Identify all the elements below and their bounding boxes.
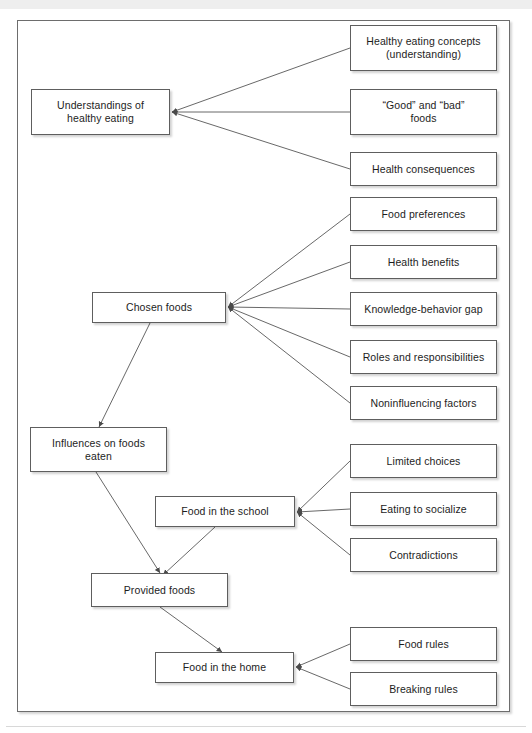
node-food-in-the-home: Food in the home [155, 652, 294, 683]
node-limited-choices: Limited choices [350, 444, 497, 478]
node-label: Eating to socialize [380, 503, 467, 516]
node-label: Food preferences [382, 208, 466, 221]
node-label: Provided foods [124, 584, 195, 597]
node-label: Roles and responsibilities [363, 351, 485, 364]
node-label: Healthy eating concepts(understanding) [366, 35, 480, 61]
node-contradictions: Contradictions [350, 538, 497, 572]
node-label: Contradictions [389, 549, 458, 562]
node-label: Food in the school [181, 505, 269, 518]
node-knowledge-behavior-gap: Knowledge-behavior gap [350, 292, 497, 326]
node-label: “Good” and “bad”foods [382, 99, 464, 125]
node-healthy-eating-concepts: Healthy eating concepts(understanding) [350, 25, 497, 71]
node-food-rules: Food rules [350, 627, 497, 661]
node-label: Health benefits [388, 256, 460, 269]
node-label: Food in the home [183, 661, 266, 674]
node-label: Influences on foodseaten [52, 437, 145, 463]
node-label: Understandings ofhealthy eating [57, 99, 144, 125]
node-eating-to-socialize: Eating to socialize [350, 492, 497, 526]
node-noninfluencing-factors: Noninfluencing factors [350, 386, 497, 420]
node-health-consequences: Health consequences [350, 152, 497, 186]
node-roles-and-responsibilities: Roles and responsibilities [350, 340, 497, 374]
node-health-benefits: Health benefits [350, 245, 497, 279]
node-label: Food rules [398, 638, 449, 651]
node-understandings-of-healthy-eating: Understandings ofhealthy eating [31, 89, 170, 135]
node-label: Chosen foods [126, 301, 192, 314]
node-good-and-bad-foods: “Good” and “bad”foods [350, 89, 497, 135]
node-label: Health consequences [372, 163, 475, 176]
node-label: Breaking rules [389, 683, 458, 696]
node-food-in-the-school: Food in the school [155, 496, 295, 527]
node-influences-on-foods-eaten: Influences on foodseaten [30, 427, 167, 472]
figure-page: Understandings ofhealthy eating Healthy … [0, 0, 532, 733]
node-layer: Understandings ofhealthy eating Healthy … [0, 0, 532, 733]
node-label: Limited choices [387, 455, 461, 468]
node-food-preferences: Food preferences [350, 197, 497, 231]
node-label: Knowledge-behavior gap [364, 303, 482, 316]
node-provided-foods: Provided foods [91, 573, 228, 607]
node-chosen-foods: Chosen foods [92, 292, 226, 323]
node-label: Noninfluencing factors [370, 397, 476, 410]
node-breaking-rules: Breaking rules [350, 672, 497, 706]
